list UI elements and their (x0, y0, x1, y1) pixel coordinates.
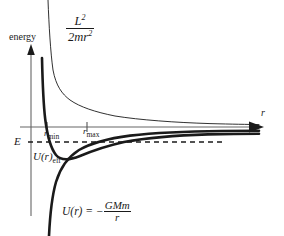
energy-diagram-figure: energy L2 2mr2 E rmin rmax r U(r)eff U(r… (0, 0, 284, 236)
tick-label-r-max-subscript: max (87, 130, 100, 139)
gravitational-potential-denominator: r (104, 212, 131, 223)
centrifugal-numerator-exponent: 2 (82, 13, 86, 22)
curve-effective-potential (42, 58, 259, 159)
x-axis-label: r (261, 108, 265, 118)
gravitational-potential-prefix: U(r) = − (62, 205, 104, 217)
energy-level-label: E (14, 136, 21, 147)
tick-label-r-min-subscript: min (48, 132, 60, 141)
y-axis (27, 44, 35, 216)
gravitational-potential-label: U(r) = − GMm r (62, 200, 131, 223)
effective-potential-label-base: U(r) (33, 150, 53, 162)
centrifugal-denominator-exponent: 2 (88, 29, 92, 38)
centrifugal-numerator: L (75, 14, 82, 28)
tick-label-r-max: rmax (83, 127, 99, 138)
tick-label-r-min: rmin (44, 129, 59, 140)
plot-canvas (0, 0, 284, 236)
centrifugal-denominator: 2mr (68, 30, 88, 44)
centrifugal-term-label: L2 2mr2 (66, 14, 94, 43)
effective-potential-label-subscript: eff (53, 156, 61, 165)
y-axis-label: energy (9, 32, 36, 42)
effective-potential-label: U(r)eff (33, 151, 61, 165)
